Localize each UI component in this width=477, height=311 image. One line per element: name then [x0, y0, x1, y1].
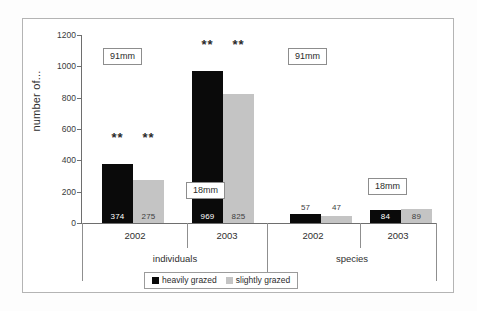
legend-item-heavily-grazed[interactable]: heavily grazed: [152, 275, 217, 285]
y-tick-label-200: 200: [46, 188, 76, 196]
callout-individuals-2002: 91mm: [103, 48, 142, 65]
y-tick-label-1000: 1000: [46, 62, 76, 70]
y-tick-mark-1200: [77, 35, 81, 36]
y-tick-label-400: 400: [46, 156, 76, 164]
y-tick-label-0: 0: [46, 219, 76, 227]
bar-chart-figure: number of... 0 200 400 600 800 1000 1200…: [0, 0, 477, 311]
bar-value-individuals-2003-heavily-grazed: 969: [192, 212, 223, 221]
legend-swatch-heavily-grazed: [152, 277, 159, 284]
legend-swatch-slightly-grazed: [226, 277, 233, 284]
bar-species-2002-heavily-grazed[interactable]: [290, 214, 321, 223]
y-tick-mark-600: [77, 129, 81, 130]
bar-value-individuals-2003-slightly-grazed: 825: [223, 212, 254, 221]
x-axis-label-individuals-2002: 2002: [90, 230, 180, 241]
bar-value-individuals-2002-heavily-grazed: 374: [102, 212, 133, 221]
significance-marker-individuals-2002-heavily-grazed: **: [102, 133, 133, 143]
significance-marker-individuals-2003-slightly-grazed: **: [223, 40, 254, 50]
bar-value-species-2003-slightly-grazed: 89: [401, 212, 432, 221]
significance-marker-individuals-2003-heavily-grazed: **: [192, 40, 223, 50]
legend-label-slightly-grazed: slightly grazed: [236, 275, 290, 285]
y-tick-label-600: 600: [46, 125, 76, 133]
legend: heavily grazed slightly grazed: [144, 272, 298, 289]
bar-species-2003-heavily-grazed[interactable]: 84: [370, 210, 401, 223]
y-tick-mark-400: [77, 160, 81, 161]
x-axis-label-species-2002: 2002: [268, 230, 358, 241]
y-tick-mark-0: [77, 223, 81, 224]
callout-species-2003: 18mm: [368, 178, 407, 195]
significance-marker-individuals-2002-slightly-grazed: **: [133, 133, 164, 143]
y-tick-mark-1000: [77, 66, 81, 67]
bar-species-2002-slightly-grazed[interactable]: [321, 216, 352, 223]
x-axis-group-label-individuals: individuals: [105, 253, 245, 264]
y-tick-label-1200: 1200: [46, 31, 76, 39]
x-axis-group-label-species: species: [282, 253, 422, 264]
bar-individuals-2003-heavily-grazed[interactable]: 969: [192, 71, 223, 223]
bar-species-2003-slightly-grazed[interactable]: 89: [401, 209, 432, 223]
bar-value-individuals-2002-slightly-grazed: 275: [133, 212, 164, 221]
bar-individuals-2002-slightly-grazed[interactable]: 275: [133, 180, 164, 223]
bar-individuals-2002-heavily-grazed[interactable]: 374: [102, 164, 133, 223]
y-tick-mark-800: [77, 98, 81, 99]
callout-individuals-2003: 18mm: [186, 182, 225, 199]
y-tick-label-800: 800: [46, 94, 76, 102]
legend-item-slightly-grazed[interactable]: slightly grazed: [226, 275, 290, 285]
x-axis-line: [81, 223, 436, 224]
bar-value-species-2002-heavily-grazed: 57: [290, 203, 321, 212]
x-axis-label-species-2003: 2003: [353, 230, 443, 241]
x-axis-label-individuals-2003: 2003: [182, 230, 272, 241]
legend-label-heavily-grazed: heavily grazed: [162, 275, 217, 285]
callout-species-2002: 91mm: [288, 48, 327, 65]
y-tick-mark-200: [77, 192, 81, 193]
x-axis-group-separator-left: [82, 223, 83, 281]
bar-value-species-2003-heavily-grazed: 84: [370, 212, 401, 221]
bar-individuals-2003-slightly-grazed[interactable]: 825: [223, 94, 254, 223]
bar-value-species-2002-slightly-grazed: 47: [321, 203, 352, 212]
